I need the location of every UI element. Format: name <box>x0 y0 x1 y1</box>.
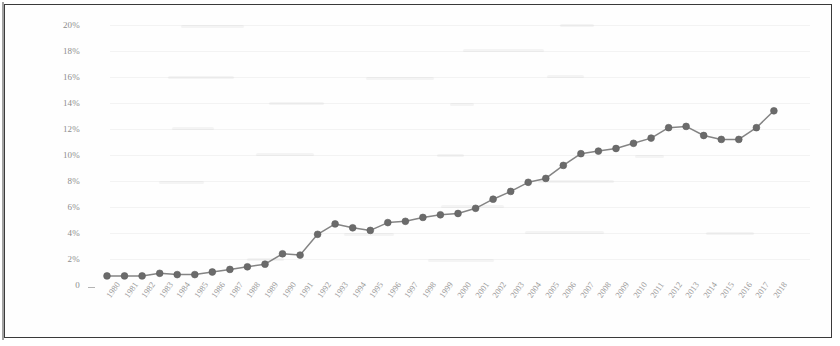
data-point-marker <box>279 250 286 257</box>
data-point-marker <box>332 221 339 228</box>
data-point-marker <box>156 270 163 277</box>
data-point-marker <box>455 210 462 217</box>
data-point-marker <box>437 211 444 218</box>
data-point-marker <box>209 269 216 276</box>
chart-screenshot: 02%4%6%8%10%12%14%16%18%20%1980198119821… <box>0 0 840 346</box>
data-point-marker <box>227 266 234 273</box>
data-point-marker <box>174 271 181 278</box>
data-point-marker <box>384 219 391 226</box>
data-point-marker <box>139 273 146 280</box>
data-point-marker <box>297 252 304 259</box>
data-point-marker <box>578 150 585 157</box>
data-point-marker <box>665 124 672 131</box>
data-point-marker <box>367 227 374 234</box>
data-point-marker <box>104 273 111 280</box>
data-point-marker <box>630 140 637 147</box>
data-point-marker <box>262 261 269 268</box>
plot-area: 02%4%6%8%10%12%14%16%18%20%1980198119821… <box>0 0 840 346</box>
data-point-marker <box>613 145 620 152</box>
data-point-marker <box>472 205 479 212</box>
data-point-marker <box>244 263 251 270</box>
data-point-marker <box>771 107 778 114</box>
data-point-marker <box>683 123 690 130</box>
data-point-marker <box>420 214 427 221</box>
data-point-marker <box>490 196 497 203</box>
data-point-marker <box>753 124 760 131</box>
data-series-layer <box>0 0 840 346</box>
data-point-marker <box>191 271 198 278</box>
data-point-marker <box>648 135 655 142</box>
data-point-marker <box>560 162 567 169</box>
data-point-marker <box>700 132 707 139</box>
data-point-marker <box>121 273 128 280</box>
data-point-marker <box>542 175 549 182</box>
data-point-marker <box>507 188 514 195</box>
data-point-marker <box>735 136 742 143</box>
data-point-marker <box>595 148 602 155</box>
data-point-marker <box>314 231 321 238</box>
data-point-marker <box>349 224 356 231</box>
data-point-marker <box>718 136 725 143</box>
data-point-marker <box>402 218 409 225</box>
data-point-marker <box>525 179 532 186</box>
series-line <box>107 111 774 276</box>
